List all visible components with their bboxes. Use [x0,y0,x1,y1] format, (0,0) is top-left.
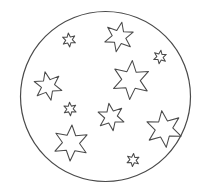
canvas-background [0,0,203,194]
stars-in-circle-illustration [0,0,203,194]
artboard: Stars Inside a Circle [0,0,203,194]
